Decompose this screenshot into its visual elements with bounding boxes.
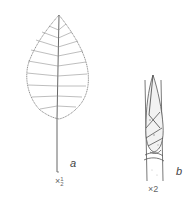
leaf-drawing: [27, 15, 89, 172]
scale-value: 2: [153, 184, 158, 194]
bud-drawing: [144, 75, 164, 181]
scale-fraction: 12: [60, 177, 63, 187]
panel-a-label: a: [70, 157, 76, 169]
panel-b-scale: ×2: [148, 184, 158, 194]
fraction-denominator: 2: [60, 181, 63, 187]
panel-a-scale: ×12: [55, 176, 64, 187]
illustration: [0, 0, 193, 208]
panel-b-label: b: [176, 165, 182, 177]
